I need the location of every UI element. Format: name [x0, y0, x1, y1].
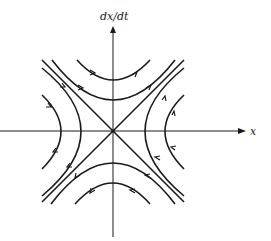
saddle-point — [111, 129, 114, 132]
arrow-icon — [162, 96, 166, 101]
phase-portrait: dx/dt x — [0, 0, 271, 241]
arrow-icon — [155, 156, 160, 160]
arrow-icon — [145, 174, 150, 178]
x-axis-arrow-icon — [238, 128, 246, 134]
arrow-icon — [172, 111, 175, 116]
arrow-icon — [171, 146, 176, 150]
phase-portrait-svg: dx/dt x — [0, 0, 271, 241]
y-axis-label: dx/dt — [100, 10, 129, 23]
trajectory-right-outer — [165, 95, 184, 169]
y-axis-arrow-icon — [110, 26, 116, 33]
trajectory-left-outer — [42, 95, 61, 169]
arrow-icon — [130, 189, 135, 193]
x-axis-label: x — [250, 125, 257, 138]
